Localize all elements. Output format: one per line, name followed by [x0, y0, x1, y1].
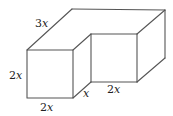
- label-top-depth: 3x: [35, 17, 49, 30]
- front-left-face: [27, 50, 73, 98]
- right-bottom-depth-edge: [137, 58, 165, 82]
- label-front-height: 2x: [9, 69, 23, 82]
- label-inner-width: 2x: [107, 83, 121, 96]
- label-inner-depth: x: [83, 87, 90, 100]
- l-shaped-solid-diagram: 3x 2x 2x x 2x: [0, 0, 173, 116]
- right-top-depth-edge: [137, 10, 165, 34]
- dimension-labels: 3x 2x 2x x 2x: [9, 17, 121, 114]
- left-depth-edge: [27, 9, 72, 50]
- inner-top-depth-edge: [73, 34, 91, 50]
- label-front-width: 2x: [40, 101, 54, 114]
- back-top-edge: [72, 9, 165, 10]
